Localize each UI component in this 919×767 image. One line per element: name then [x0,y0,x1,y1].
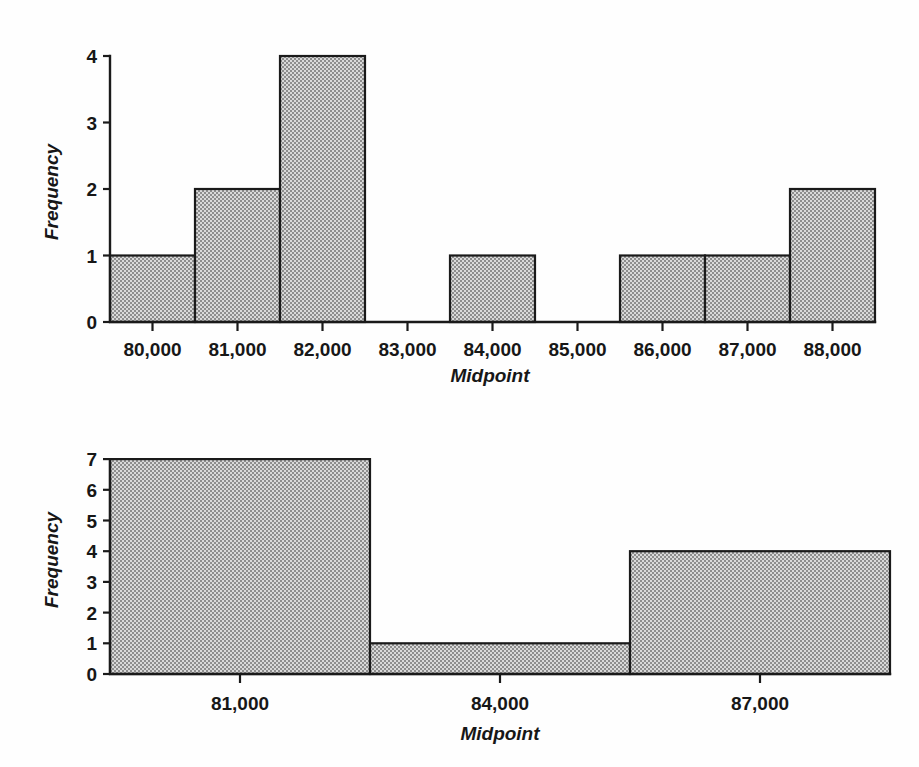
y-tick-label: 4 [86,46,97,67]
y-tick-label: 7 [86,449,97,470]
y-axis-title: Frequency [41,511,62,609]
y-tick-label: 3 [86,572,97,593]
figure-page: 80,00081,00082,00083,00084,00085,00086,0… [0,0,919,767]
bars-group-top [110,56,875,322]
histogram-top: 80,00081,00082,00083,00084,00085,00086,0… [0,0,919,400]
histogram-bar [110,256,195,323]
y-tick-label: 0 [86,664,97,685]
histogram-bottom: 81,00084,00087,000 01234567 Midpoint Fre… [0,400,919,767]
x-axis-title: Midpoint [450,365,530,386]
histogram-bar [790,189,875,322]
y-tick-label: 4 [86,541,97,562]
x-tick-label: 87,000 [731,693,789,714]
histogram-bar [630,551,890,674]
histogram-bar [280,56,365,322]
y-tick-label: 2 [86,603,97,624]
x-tick-label: 82,000 [293,339,351,360]
y-tick-label: 0 [86,312,97,333]
y-tick-labels-top: 01234 [86,46,97,333]
x-tick-labels-bottom: 81,00084,00087,000 [211,693,789,714]
bars-group-bottom [110,459,890,674]
x-tick-label: 81,000 [208,339,266,360]
histogram-bottom-canvas: 81,00084,00087,000 01234567 Midpoint Fre… [0,400,919,767]
histogram-bar [450,256,535,323]
y-tick-label: 2 [86,179,97,200]
x-tick-label: 81,000 [211,693,269,714]
histogram-bar [705,256,790,323]
x-tick-label: 84,000 [471,693,529,714]
x-tick-labels-top: 80,00081,00082,00083,00084,00085,00086,0… [123,339,861,360]
y-tick-label: 3 [86,113,97,134]
x-tick-label: 83,000 [378,339,436,360]
x-axis-title: Midpoint [460,723,540,744]
histogram-top-canvas: 80,00081,00082,00083,00084,00085,00086,0… [0,0,919,400]
x-tick-label: 80,000 [123,339,181,360]
histogram-bar [195,189,280,322]
x-tick-label: 87,000 [718,339,776,360]
histogram-bar [370,643,630,674]
y-axis-title: Frequency [41,143,62,241]
x-tick-label: 85,000 [548,339,606,360]
x-tick-label: 84,000 [463,339,521,360]
y-tick-label: 1 [86,633,97,654]
histogram-bar [110,459,370,674]
x-tick-label: 86,000 [633,339,691,360]
histogram-bar [620,256,705,323]
y-tick-labels-bottom: 01234567 [86,449,97,685]
y-tick-label: 5 [86,511,97,532]
x-tick-label: 88,000 [803,339,861,360]
y-tick-label: 1 [86,246,97,267]
y-tick-label: 6 [86,480,97,501]
